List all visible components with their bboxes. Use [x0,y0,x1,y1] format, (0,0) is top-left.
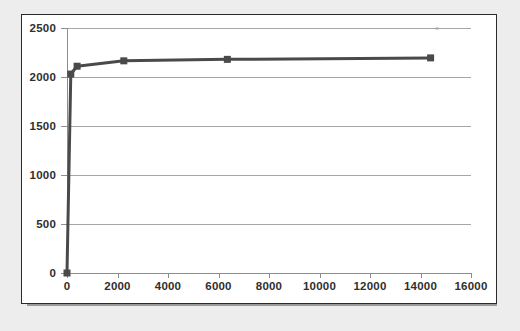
data-point-0-3 [120,57,127,64]
data-point-0-4 [224,56,231,63]
data-point-0-2 [74,63,81,70]
data-point-0-0 [64,270,71,277]
chart-panel: 0500100015002000250002000400060008000100… [21,14,497,304]
plot-area: 0500100015002000250002000400060008000100… [22,15,496,303]
series-layer [22,15,498,305]
data-point-0-5 [427,54,434,61]
screenshot-root: 0500100015002000250002000400060008000100… [0,0,520,331]
data-point-0-1 [67,71,74,78]
series-line-series-1 [67,58,431,273]
